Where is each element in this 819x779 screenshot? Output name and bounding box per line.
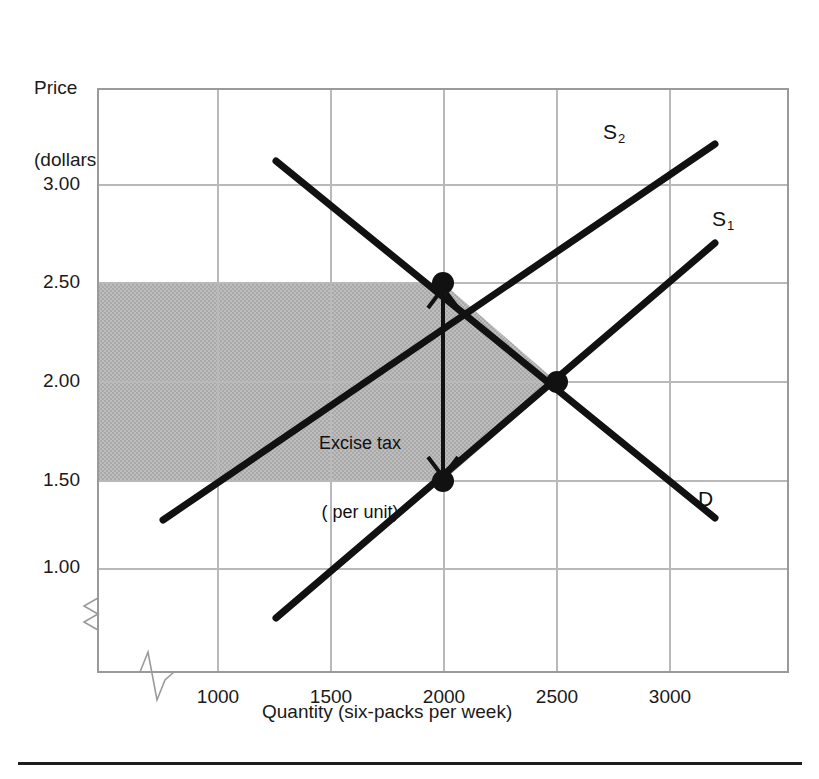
curve-label-S1: S1 — [712, 207, 733, 231]
point-equilibrium-before-tax — [546, 371, 568, 393]
y-axis-break-icon — [84, 598, 98, 630]
excise-tax-annotation: Excise tax ( per unit) — [285, 386, 435, 570]
bottom-divider-rule — [18, 762, 802, 765]
economics-excise-tax-chart: Price (dollars per six-pack) 3.00 2.50 2… — [0, 0, 819, 779]
point-equilibrium-after-tax — [432, 272, 454, 294]
point-price-received-by-sellers — [432, 470, 454, 492]
excise-tax-annotation-line1: Excise tax — [285, 432, 435, 455]
curve-label-S2: S2 — [603, 120, 624, 144]
curve-label-D: D — [698, 487, 713, 511]
excise-tax-annotation-line2: ( per unit) — [285, 501, 435, 524]
